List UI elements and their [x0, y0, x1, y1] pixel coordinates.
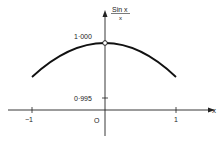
origin-label: O	[94, 117, 100, 124]
y-axis-label-denominator: x	[119, 15, 122, 21]
y-tick-label-1000: 1·000	[74, 33, 92, 40]
open-point-marker	[103, 41, 108, 46]
sinx-over-x-chart: Sin x x 1·000 0·995 −1 O 1 x	[0, 0, 223, 141]
x-tick-label-plus-1: 1	[174, 116, 178, 123]
sinx-over-x-curve	[32, 43, 176, 77]
y-tick-label-0995: 0·995	[74, 95, 92, 102]
x-tick-label-minus-1: −1	[25, 116, 33, 123]
y-axis-arrow-icon	[103, 10, 108, 17]
y-axis-label-numerator: Sin x	[112, 6, 128, 13]
x-axis-label: x	[212, 106, 216, 115]
